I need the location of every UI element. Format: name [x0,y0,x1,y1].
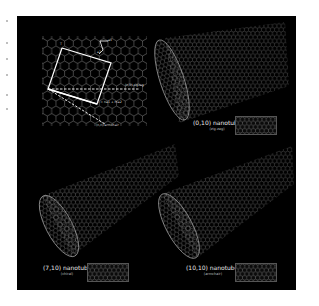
nanotube-unrolled-thumbnail [235,263,277,282]
margin-dot [6,42,8,44]
nanotube-zigzag-model [148,22,289,124]
a2-label: a2 [97,50,101,54]
nanotube-chiral-model [32,144,179,262]
margin-dot [6,58,8,60]
margin-dots [0,0,16,306]
chiral-vector-label: C = na1 + ma2 [97,100,122,104]
margin-dot [6,20,8,22]
nanotube-type: (chiral) [55,272,79,276]
a1-label: a1 [108,38,112,42]
nanotube-type: (armchair) [200,272,226,276]
zigzag-axis-label: (n,0) zigzag [125,83,144,87]
nanotube-unrolled-thumbnail [235,116,277,135]
armchair-axis-label: (n,n) armchair [96,123,119,127]
margin-dot [6,74,8,76]
figure-graphics [17,16,296,290]
nanotube-title: (7,10) nanotube [43,264,92,271]
t-vector-label: T [60,42,62,46]
margin-dot [6,94,8,96]
margin-dot [6,108,8,110]
nanotube-type: (zig-zag) [205,127,229,131]
graphene-lattice [42,36,147,126]
nanotube-figure: T a1 a2 (n,0) zigzag C = na1 + ma2 (n,n)… [17,16,296,290]
nanotube-title: (10,10) nanotube [186,264,238,271]
nanotube-unrolled-thumbnail [87,263,129,282]
